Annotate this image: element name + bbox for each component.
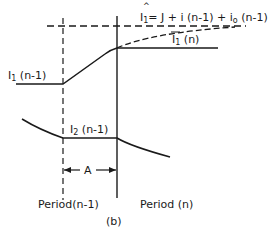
i2-prev-label: I2 (n-1)	[70, 123, 108, 137]
interval-a-label: A	[84, 164, 92, 177]
arrow-right-icon	[109, 167, 116, 173]
i1-prev-label: I1 (n-1)	[8, 69, 46, 83]
period-prev-label: Period(n-1)	[38, 198, 99, 211]
timing-diagram: A ^ I1= J + i (n-1) + io (n-1) I1 (n) I1…	[0, 0, 268, 230]
figure-caption: (b)	[106, 215, 122, 228]
arrow-left-icon	[64, 167, 71, 173]
i1-n-label: I1 (n)	[172, 33, 199, 47]
i1-hat-equation: I1= J + i (n-1) + io (n-1)	[140, 11, 268, 25]
period-curr-label: Period (n)	[140, 198, 193, 211]
i1-hat-hat-mark: ^	[143, 2, 150, 11]
